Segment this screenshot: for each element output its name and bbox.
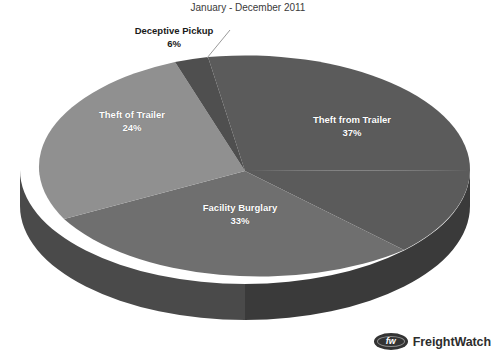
freightwatch-globe-icon: fw <box>374 333 408 350</box>
slice-label-deceptive-pickup: Deceptive Pickup 6% <box>118 24 230 50</box>
slice-label-name: Deceptive Pickup <box>118 24 230 37</box>
slice-label-percent: 33% <box>176 214 304 227</box>
pie-chart-figure: January - December 2011 Deceptive Pickup… <box>0 0 495 351</box>
slice-label-percent: 6% <box>118 37 230 50</box>
logo-mark-text: fw <box>374 333 408 350</box>
freightwatch-logo: fw FreightWatch <box>374 333 491 350</box>
logo-wordmark: FreightWatch <box>413 335 491 349</box>
pie-chart-graphic <box>0 0 495 351</box>
slice-label-theft-of-trailer: Theft of Trailer 24% <box>68 108 196 134</box>
slice-label-theft-from-trailer: Theft from Trailer 37% <box>288 113 416 139</box>
slice-label-name: Theft of Trailer <box>68 108 196 121</box>
slice-label-facility-burglary: Facility Burglary 33% <box>176 201 304 227</box>
slice-label-name: Theft from Trailer <box>288 113 416 126</box>
slice-label-percent: 37% <box>288 126 416 139</box>
slice-label-percent: 24% <box>68 121 196 134</box>
slice-label-name: Facility Burglary <box>176 201 304 214</box>
